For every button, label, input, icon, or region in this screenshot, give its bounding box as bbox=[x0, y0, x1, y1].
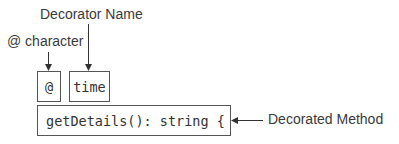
at-symbol-text: @ bbox=[45, 79, 53, 95]
at-symbol-box: @ bbox=[37, 71, 61, 102]
method-text: getDetails(): string { bbox=[46, 113, 225, 129]
method-box: getDetails(): string { bbox=[37, 105, 231, 136]
decorator-text: time bbox=[73, 79, 106, 95]
decorated-method-label: Decorated Method bbox=[268, 111, 383, 127]
decorator-box: time bbox=[69, 71, 110, 102]
